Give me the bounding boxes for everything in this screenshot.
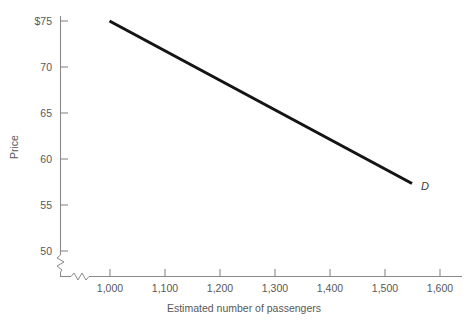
x-tick-label: 1,400 — [317, 282, 343, 294]
x-tick-label: 1,000 — [97, 282, 123, 294]
y-axis-ticks — [61, 21, 69, 251]
x-tick-label: 1,100 — [152, 282, 178, 294]
demand-curve-label: D — [421, 180, 429, 192]
y-tick-label: 60 — [40, 153, 52, 165]
chart-canvas: $75 70 65 60 55 50 1,000 1,100 1,200 1,3… — [0, 0, 476, 327]
x-tick-label: 1,600 — [427, 282, 453, 294]
y-tick-label: $75 — [34, 15, 52, 27]
x-tick-label: 1,500 — [372, 282, 398, 294]
x-tick-label: 1,300 — [262, 282, 288, 294]
y-axis-title: Price — [8, 135, 20, 159]
x-axis-break-icon — [71, 273, 92, 280]
y-tick-label: 55 — [40, 199, 52, 211]
x-tick-label: 1,200 — [207, 282, 233, 294]
y-tick-label: 70 — [40, 61, 52, 73]
demand-curve-chart: $75 70 65 60 55 50 1,000 1,100 1,200 1,3… — [0, 0, 476, 327]
x-axis-ticks — [110, 269, 440, 277]
y-tick-label: 50 — [40, 245, 52, 257]
y-tick-label: 65 — [40, 107, 52, 119]
demand-curve-line — [110, 21, 413, 184]
y-axis-break-icon — [57, 255, 64, 277]
x-axis-title: Estimated number of passengers — [167, 302, 321, 314]
